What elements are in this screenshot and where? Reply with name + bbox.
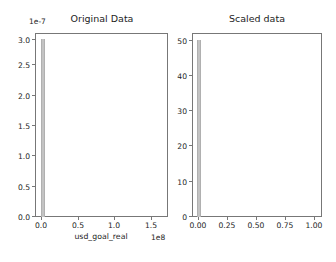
- x-axis-offset-text-left: 1e8: [151, 233, 165, 242]
- ytick-label-right: 30: [168, 107, 187, 116]
- ytick-mark-right: [189, 145, 192, 146]
- xtick-mark-left: [114, 217, 115, 220]
- xtick-mark-right: [227, 217, 228, 220]
- xtick-label-right: 0.00: [190, 221, 207, 230]
- ytick-label-left: 3.0: [4, 36, 30, 45]
- ytick-mark-right: [189, 216, 192, 217]
- xtick-label-right: 1.00: [306, 221, 323, 230]
- xtick-label-left: 0.5: [72, 221, 84, 230]
- ytick-label-right: 50: [168, 37, 187, 46]
- ytick-mark-right: [189, 75, 192, 76]
- axes-frame-right: [192, 33, 322, 217]
- axes-frame-left: [35, 33, 168, 217]
- ytick-label-left: 0.0: [4, 213, 30, 222]
- subplot-title-left: Original Data: [36, 13, 168, 24]
- xtick-label-left: 1.5: [145, 221, 157, 230]
- ytick-label-left: 1.5: [4, 122, 30, 131]
- y-axis-offset-text-left: 1e-7: [29, 17, 46, 26]
- xtick-mark-left: [151, 217, 152, 220]
- histogram-bar: [41, 39, 45, 217]
- xtick-label-left: 1.0: [108, 221, 120, 230]
- ytick-mark-right: [189, 181, 192, 182]
- ytick-label-right: 40: [168, 72, 187, 81]
- xtick-label-right: 0.25: [219, 221, 236, 230]
- subplot-title-right: Scaled data: [192, 13, 322, 24]
- ytick-mark-left: [32, 155, 35, 156]
- ytick-label-right: 0: [168, 213, 187, 222]
- ytick-label-right: 20: [168, 142, 187, 151]
- ytick-mark-left: [32, 186, 35, 187]
- subplot-scaled-data: Scaled data 0 10 20 30 40 50 0.00 0.25 0…: [180, 0, 336, 262]
- ytick-label-left: 2.0: [4, 92, 30, 101]
- xtick-label-left: 0.0: [35, 221, 47, 230]
- histogram-bar: [197, 40, 201, 217]
- xtick-label-right: 0.50: [248, 221, 265, 230]
- ytick-mark-right: [189, 110, 192, 111]
- ytick-mark-left: [32, 39, 35, 40]
- ytick-mark-left: [32, 64, 35, 65]
- xtick-mark-right: [285, 217, 286, 220]
- subplot-original-data: Original Data 1e-7 0.0 0.5 1.0 1.5 2.0 2…: [0, 0, 180, 262]
- ytick-mark-left: [32, 216, 35, 217]
- xtick-mark-right: [256, 217, 257, 220]
- matplotlib-figure: Original Data 1e-7 0.0 0.5 1.0 1.5 2.0 2…: [0, 0, 336, 262]
- xtick-label-right: 0.75: [277, 221, 294, 230]
- xtick-mark-right: [198, 217, 199, 220]
- ytick-label-left: 2.5: [4, 61, 30, 70]
- ytick-mark-left: [32, 95, 35, 96]
- ytick-label-left: 1.0: [4, 152, 30, 161]
- ytick-mark-right: [189, 40, 192, 41]
- xtick-mark-left: [78, 217, 79, 220]
- xtick-mark-left: [41, 217, 42, 220]
- x-axis-label-left: usd_goal_real: [74, 232, 127, 242]
- ytick-label-left: 0.5: [4, 183, 30, 192]
- xtick-mark-right: [314, 217, 315, 220]
- ytick-label-right: 10: [168, 178, 187, 187]
- ytick-mark-left: [32, 125, 35, 126]
